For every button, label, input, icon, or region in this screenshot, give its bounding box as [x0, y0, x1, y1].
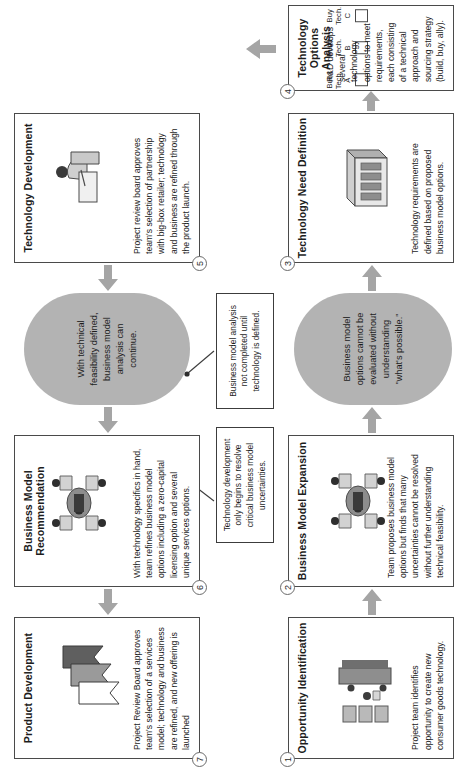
step-title-3: Technology Need Definition [296, 114, 308, 262]
step-box-4[interactable]: Technology Options Analysis Build Tech. … [288, 5, 454, 91]
step-title-2: Business Model Expansion [296, 436, 308, 586]
step-box-5[interactable]: Technology Development Project review bo… [14, 113, 200, 263]
person-at-desk-icon [53, 146, 103, 208]
rotated-diagram-wrapper: Opportunity Identification Project team … [0, 0, 467, 767]
step-title-1: Opportunity Identification [296, 618, 308, 758]
flow-arrow-2-to-callout [362, 407, 382, 433]
flow-arrow-3-to-4 [362, 91, 380, 111]
step-box-3[interactable]: Technology Need Definition Technology re… [288, 113, 454, 263]
step-number-7: 7 [192, 752, 207, 767]
team-meeting-icon [337, 638, 393, 724]
process-flow-diagram: Opportunity Identification Project team … [0, 0, 467, 767]
flow-arrow-1-to-2 [362, 589, 382, 615]
step-number-5: 5 [192, 256, 207, 271]
step-body-5: Project review board approves team's sel… [131, 122, 192, 254]
step-body-1: Project team identifies opportunity to c… [409, 626, 446, 750]
step-body-2: Team proposes business model options but… [385, 444, 446, 578]
step-title-7: Product Development [22, 618, 34, 758]
flow-arrow-4-to-5-vertical [246, 39, 276, 59]
leader-line-note-2 [186, 325, 220, 381]
step-box-6[interactable]: Business Model Recommendation With techn… [14, 435, 200, 587]
team-table-icon [51, 470, 107, 536]
step-number-1: 1 [280, 752, 295, 767]
flow-arrow-5-to-callout [98, 265, 118, 291]
step-number-2: 2 [280, 580, 295, 595]
step-body-7: Project Review Board approves team's sel… [131, 626, 192, 750]
step-body-3: Technology requirements are defined base… [409, 122, 446, 254]
step-title-6: Business Model Recommendation [22, 436, 46, 586]
callout-pill-2: With technical feasibility defined, busi… [24, 293, 190, 405]
annotation-note-2: Business model analysis not completed un… [216, 293, 274, 409]
server-rack-icon [341, 146, 391, 210]
step-number-3: 3 [280, 256, 295, 271]
step-body-4: R&D develops several technology options … [324, 14, 446, 82]
step-box-1[interactable]: Opportunity Identification Project team … [288, 617, 454, 759]
step-number-6: 6 [192, 580, 207, 595]
step-number-4: 4 [280, 84, 295, 99]
callout-pill-1: Business model options cannot be evaluat… [294, 293, 452, 405]
flow-arrow-callout-to-3 [362, 265, 382, 291]
team-table-icon [329, 468, 387, 534]
step-box-2[interactable]: Business Model Expansion Team proposes b… [288, 435, 454, 587]
flow-arrow-6-to-7 [98, 589, 118, 615]
stacked-banners-icon [59, 636, 123, 712]
step-body-6: With technology specifics in hand, team … [131, 444, 192, 578]
step-box-7[interactable]: Product DevelopmentProject Review Board … [14, 617, 200, 759]
annotation-note-1: Technology development only begins to re… [216, 427, 274, 543]
step-title-5: Technology Development [22, 114, 34, 262]
flow-arrow-callout-to-6 [98, 407, 118, 433]
